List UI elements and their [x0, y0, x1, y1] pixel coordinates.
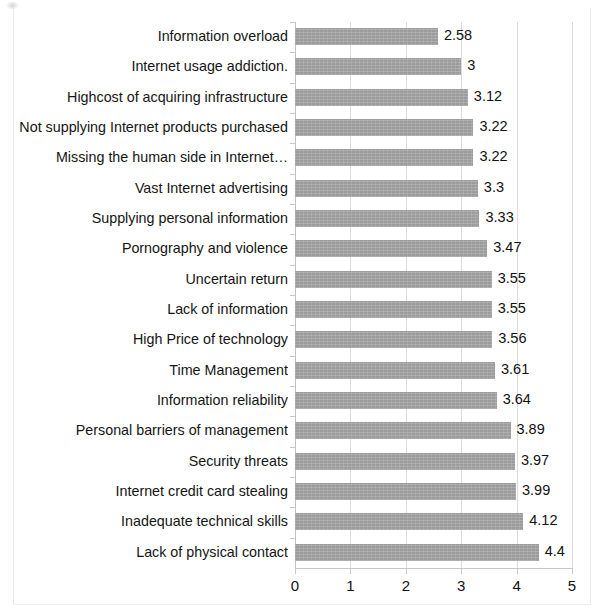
x-tick-label-4: 4	[512, 576, 520, 596]
category-label: Internet usage addiction.	[8, 56, 288, 76]
chart-row: Pornography and violence3.47	[295, 234, 572, 264]
bar[interactable]	[295, 149, 473, 166]
bar-value-label: 3.55	[498, 298, 526, 318]
bar-value-label: 3.33	[485, 207, 513, 227]
chart-row: High Price of technology3.56	[295, 325, 572, 355]
chart-row: Information reliability3.64	[295, 386, 572, 416]
category-tick	[290, 325, 295, 326]
x-tick-mark-2	[406, 568, 407, 574]
chart-row: Information overload2.58	[295, 22, 572, 52]
bar[interactable]	[295, 544, 539, 561]
bar[interactable]	[295, 301, 492, 318]
chart-row: Time Management3.61	[295, 356, 572, 386]
x-tick-mark-4	[517, 568, 518, 574]
bar-value-label: 3.64	[503, 389, 531, 409]
x-tick-label-1: 1	[346, 576, 354, 596]
category-label: Inadequate technical skills	[8, 511, 288, 531]
bar-value-label: 3.55	[498, 268, 526, 288]
bar-value-label: 3.47	[493, 237, 521, 257]
bar[interactable]	[295, 271, 492, 288]
category-tick	[290, 204, 295, 205]
bar-value-label: 4.4	[545, 541, 565, 561]
chart-row: Uncertain return3.55	[295, 265, 572, 295]
category-label: Highcost of acquiring infrastructure	[8, 87, 288, 107]
category-tick	[290, 477, 295, 478]
chart-row: Lack of information3.55	[295, 295, 572, 325]
bar[interactable]	[295, 89, 468, 106]
category-tick	[290, 52, 295, 53]
category-label: Pornography and violence	[8, 238, 288, 258]
bar-value-label: 3.22	[479, 116, 507, 136]
x-tick-mark-5	[572, 568, 573, 574]
chart-row: Internet usage addiction.3	[295, 52, 572, 82]
chart-row: Not supplying Internet products purchase…	[295, 113, 572, 143]
category-tick	[290, 143, 295, 144]
bar-value-label: 3.56	[498, 328, 526, 348]
x-tick-mark-0	[295, 568, 296, 574]
bar[interactable]	[295, 58, 461, 75]
category-label: Not supplying Internet products purchase…	[8, 117, 288, 137]
x-tick-label-5: 5	[568, 576, 576, 596]
category-tick	[290, 416, 295, 417]
bar[interactable]	[295, 119, 473, 136]
category-label: Security threats	[8, 451, 288, 471]
category-label: Internet credit card stealing	[8, 481, 288, 501]
bar[interactable]	[295, 362, 495, 379]
category-label: Missing the human side in Internet…	[8, 147, 288, 167]
chart-row: Supplying personal information3.33	[295, 204, 572, 234]
bar[interactable]	[295, 422, 511, 439]
bar-value-label: 3.3	[484, 177, 504, 197]
chart-row: Personal barriers of management3.89	[295, 416, 572, 446]
bar[interactable]	[295, 28, 438, 45]
category-label: Time Management	[8, 360, 288, 380]
bar-value-label: 3.12	[474, 86, 502, 106]
bar-value-label: 3.99	[522, 480, 550, 500]
category-label: Uncertain return	[8, 269, 288, 289]
chart-row: Inadequate technical skills4.12	[295, 507, 572, 537]
x-tick-mark-1	[350, 568, 351, 574]
chart-row: Internet credit card stealing3.99	[295, 477, 572, 507]
bar[interactable]	[295, 180, 478, 197]
gridline-5	[572, 22, 573, 568]
bar-value-label: 3	[467, 55, 475, 75]
bar[interactable]	[295, 453, 515, 470]
category-label: Lack of physical contact	[8, 542, 288, 562]
chart-row: Missing the human side in Internet…3.22	[295, 143, 572, 173]
category-tick	[290, 113, 295, 114]
bar[interactable]	[295, 240, 487, 257]
category-tick	[290, 295, 295, 296]
category-label: Lack of information	[8, 299, 288, 319]
chart-row: Lack of physical contact4.4	[295, 538, 572, 568]
bar-value-label: 4.12	[529, 510, 557, 530]
plot-area: Information overload2.58Internet usage a…	[295, 22, 572, 568]
category-label: Vast Internet advertising	[8, 178, 288, 198]
category-label: Information overload	[8, 26, 288, 46]
bar-value-label: 3.22	[479, 146, 507, 166]
category-tick	[290, 386, 295, 387]
bar[interactable]	[295, 483, 516, 500]
x-tick-label-3: 3	[457, 576, 465, 596]
bar-value-label: 3.97	[521, 450, 549, 470]
bar[interactable]	[295, 392, 497, 409]
value-axis-line	[295, 568, 573, 569]
chart-row: Vast Internet advertising3.3	[295, 174, 572, 204]
horizontal-bar-chart: Information overload2.58Internet usage a…	[0, 0, 604, 613]
chart-row: Highcost of acquiring infrastructure3.12	[295, 83, 572, 113]
category-label: Supplying personal information	[8, 208, 288, 228]
category-label: Personal barriers of management	[8, 420, 288, 440]
category-label: High Price of technology	[8, 329, 288, 349]
category-tick	[290, 538, 295, 539]
category-tick	[290, 22, 295, 23]
category-tick	[290, 234, 295, 235]
bar[interactable]	[295, 331, 492, 348]
x-tick-label-0: 0	[291, 576, 299, 596]
category-tick	[290, 83, 295, 84]
category-tick	[290, 447, 295, 448]
category-tick	[290, 356, 295, 357]
bar[interactable]	[295, 513, 523, 530]
category-tick	[290, 174, 295, 175]
category-tick	[290, 265, 295, 266]
bar-value-label: 3.61	[501, 359, 529, 379]
bar[interactable]	[295, 210, 479, 227]
x-tick-label-2: 2	[402, 576, 410, 596]
